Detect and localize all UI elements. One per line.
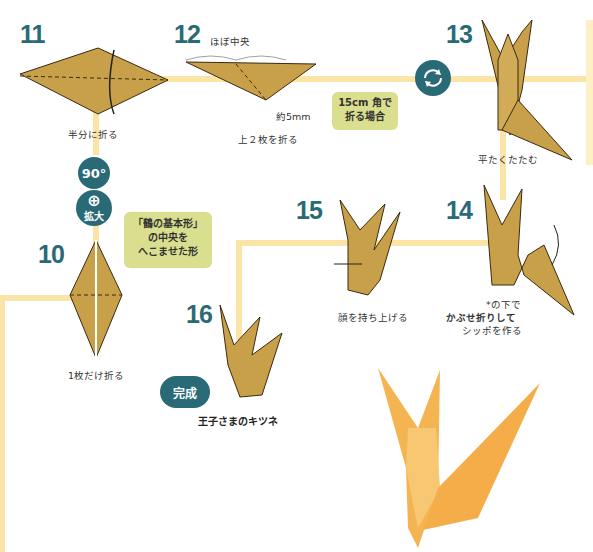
path-segment: [0, 295, 5, 552]
step-14-diagram: [484, 185, 593, 315]
step-16-diagram: [218, 305, 290, 405]
step-11-caption: 半分に折る: [68, 127, 118, 141]
step-15-number: 15: [296, 196, 322, 225]
step-12-note-mm: 約5mm: [276, 109, 311, 123]
step-13-number: 13: [446, 20, 472, 49]
rotate-90-icon: 90°: [76, 155, 112, 191]
step-12-diagram: [186, 52, 316, 102]
step-12-number: 12: [174, 20, 200, 49]
flip-over-icon: [415, 60, 451, 96]
zoom-in-icon: ⊕ 拡大: [76, 190, 112, 226]
step-13-caption: 平たくたたむ: [478, 152, 538, 166]
fox-photo: [378, 368, 543, 538]
path-segment: [0, 295, 80, 301]
step-16-number: 16: [186, 300, 212, 329]
step-16-caption: 王子さまのキツネ: [198, 413, 278, 428]
side-panel-edge: [586, 20, 593, 165]
step-10-shape-bubble: 「鶴の基本形」 の中央を へこませた形: [124, 212, 212, 268]
step-11-diagram: [18, 48, 168, 118]
step-11-number: 11: [20, 20, 44, 49]
step-14-caption-line-3: シッポを作る: [462, 323, 522, 337]
step-12-note-center: ほぼ中央: [210, 34, 250, 48]
step-12-caption: 上２枚を折る: [238, 132, 298, 146]
step-15-diagram: [340, 200, 412, 300]
step-14-caption-line-1: *の下で: [486, 297, 521, 311]
complete-badge: 完成: [160, 376, 210, 408]
step-12-size-bubble: 15cm 角で 折る場合: [332, 92, 398, 130]
step-13-diagram: [482, 20, 582, 160]
step-14-caption-line-2: かぶせ折りして: [446, 310, 516, 324]
step-10-diagram: [70, 240, 122, 360]
step-10-number: 10: [38, 240, 64, 269]
step-15-caption: 顔を持ち上げる: [338, 310, 408, 324]
step-14-number: 14: [446, 196, 472, 225]
step-10-caption: 1枚だけ折る: [68, 368, 124, 382]
